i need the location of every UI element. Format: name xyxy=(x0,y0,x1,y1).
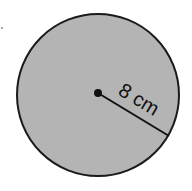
circle-diagram: 8 cm xyxy=(0,0,192,191)
center-point xyxy=(94,89,102,97)
stray-dot xyxy=(1,27,3,29)
